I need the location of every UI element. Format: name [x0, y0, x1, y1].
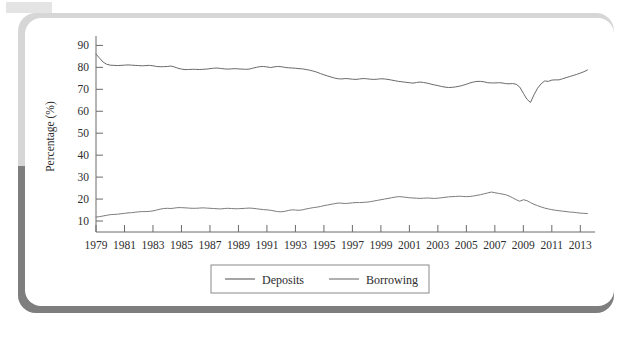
x-tick-label: 1995: [312, 239, 335, 251]
x-tick-label: 2011: [541, 239, 564, 251]
y-axis-title: Percentage (%): [44, 101, 57, 172]
line-chart: 102030405060708090 197919811983198519871…: [25, 18, 614, 306]
x-tick-label: 2003: [426, 239, 449, 251]
series-line-borrowing: [96, 192, 587, 217]
y-tick-label: 40: [78, 149, 90, 161]
x-tick-label: 1981: [113, 239, 136, 251]
y-tick-label: 70: [78, 83, 90, 95]
y-tick-label: 30: [78, 171, 90, 183]
x-tick-label: 1985: [170, 239, 193, 251]
legend-label-borrowing: Borrowing: [366, 273, 418, 287]
y-tick-label: 80: [78, 61, 90, 73]
x-tick-label: 1989: [227, 239, 250, 251]
chart-legend: DepositsBorrowing: [211, 265, 429, 293]
y-tick-label: 90: [78, 39, 90, 51]
x-tick-label: 1983: [141, 239, 164, 251]
x-tick-label: 1999: [369, 239, 392, 251]
series-lines: [96, 54, 587, 217]
x-tick-label: 2005: [455, 239, 478, 251]
x-tick-label: 2007: [483, 239, 506, 251]
x-tick-label: 1997: [341, 239, 364, 251]
legend-label-deposits: Deposits: [262, 273, 304, 287]
y-tick-label: 20: [78, 193, 90, 205]
y-tick-label: 60: [78, 105, 90, 117]
y-tick-label: 10: [78, 215, 90, 227]
scan-corner-artifact: [6, 2, 52, 13]
series-line-deposits: [96, 54, 587, 102]
x-tick-label: 2009: [512, 239, 535, 251]
x-axis-ticks: 1979198119831985198719891991199319951997…: [85, 225, 593, 251]
y-axis-ticks: 102030405060708090: [78, 39, 104, 227]
x-tick-label: 2013: [569, 239, 592, 251]
x-tick-label: 1991: [255, 239, 278, 251]
chart-svg: 102030405060708090 197919811983198519871…: [25, 18, 614, 306]
x-tick-label: 1987: [198, 239, 221, 251]
x-tick-label: 1993: [284, 239, 307, 251]
x-tick-label: 2001: [398, 239, 421, 251]
y-tick-label: 50: [78, 127, 90, 139]
x-tick-label: 1979: [85, 239, 108, 251]
